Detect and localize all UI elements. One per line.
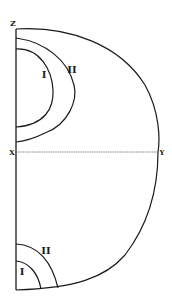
label-lower-i: I (20, 266, 25, 277)
label-upper-ii: II (67, 64, 77, 75)
label-x: X (9, 148, 15, 157)
label-z: Z (10, 18, 16, 28)
diagram-canvas: Z X Y I II I II (0, 0, 172, 304)
label-lower-ii: II (41, 245, 51, 256)
label-y: Y (159, 148, 166, 157)
upper-curve-i (16, 49, 53, 127)
label-upper-i: I (42, 69, 47, 80)
